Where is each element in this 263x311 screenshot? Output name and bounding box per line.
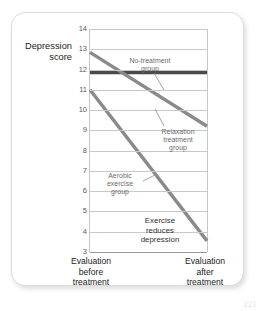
annotation-no-treatment-group: No-treatment group xyxy=(119,57,181,73)
x-axis-label-after: Evaluation after treatment xyxy=(168,256,242,288)
y-tick-11: 11 xyxy=(71,86,87,94)
gridline-11 xyxy=(90,90,207,91)
y-tick-3: 3 xyxy=(71,248,87,256)
gridline-13 xyxy=(90,49,207,50)
y-axis-title: Depression score xyxy=(16,41,72,62)
annotation-aerobic-exercise-group: Aerobic exercise group xyxy=(99,172,141,197)
y-tick-13: 13 xyxy=(71,46,87,54)
gridline-10 xyxy=(90,110,207,111)
y-tick-10: 10 xyxy=(71,106,87,114)
y-tick-6: 6 xyxy=(71,187,87,195)
gridline-5 xyxy=(90,211,207,212)
y-tick-5: 5 xyxy=(71,208,87,216)
gridline-3 xyxy=(90,252,207,253)
y-tick-14: 14 xyxy=(71,25,87,33)
y-tick-8: 8 xyxy=(71,147,87,155)
page-number: 221 xyxy=(244,300,258,309)
annotation-conclusion: Exercise reduces depression xyxy=(129,216,191,245)
y-tick-4: 4 xyxy=(71,228,87,236)
y-tick-9: 9 xyxy=(71,127,87,135)
annotation-relaxation-treatment-group: Relaxation treatment group xyxy=(152,128,204,153)
y-axis-tick-labels: 14131211109876543 xyxy=(70,29,87,252)
x-axis-label-before: Evaluation before treatment xyxy=(52,256,130,288)
gridline-14 xyxy=(90,29,207,30)
y-tick-12: 12 xyxy=(71,66,87,74)
y-tick-7: 7 xyxy=(71,167,87,175)
figure-card: Depression score 14131211109876543 Evalu… xyxy=(11,12,244,286)
